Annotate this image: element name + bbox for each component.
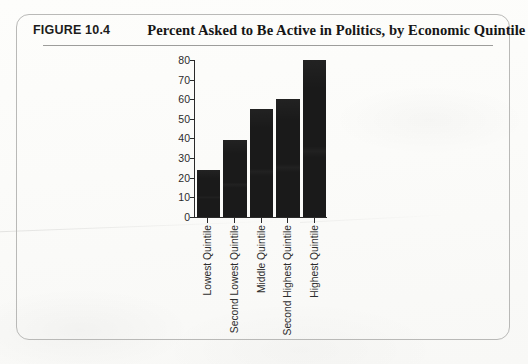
- figure-header: FIGURE 10.4 Percent Asked to Be Active i…: [16, 14, 510, 46]
- y-tick-label: 50: [178, 113, 190, 125]
- bar: [250, 109, 274, 217]
- y-tick-label: 20: [178, 172, 190, 184]
- y-tick-label: 80: [178, 54, 190, 66]
- y-tick-label: 70: [178, 74, 190, 86]
- y-tick-label: 40: [178, 132, 190, 144]
- plot-area: 01020304050607080 Lowest QuintileSecond …: [194, 60, 327, 218]
- figure-title: Percent Asked to Be Active in Politics, …: [147, 22, 525, 39]
- bar: [276, 99, 300, 217]
- figure-number-label: FIGURE 10.4: [16, 23, 110, 37]
- bar: [223, 140, 247, 216]
- x-tick-label: Second Highest Quintile: [282, 225, 293, 335]
- bar-chart: 01020304050607080 Lowest QuintileSecond …: [167, 56, 367, 336]
- y-tick-label: 30: [178, 152, 190, 164]
- header-rule: [43, 45, 493, 46]
- x-tick-label: Middle Quintile: [255, 225, 266, 293]
- x-tick-mark: [207, 218, 208, 223]
- y-tick-mark: [190, 217, 195, 218]
- x-tick-label: Lowest Quintile: [202, 225, 213, 295]
- x-tick-label: Highest Quintile: [308, 225, 319, 298]
- x-tick-mark: [261, 218, 262, 223]
- x-tick-mark: [287, 218, 288, 223]
- y-axis: [194, 60, 195, 218]
- y-tick-label: 0: [184, 211, 190, 223]
- y-tick-label: 10: [178, 191, 190, 203]
- x-tick-label: Second Lowest Quintile: [228, 225, 239, 333]
- x-tick-mark: [234, 218, 235, 223]
- bar: [303, 60, 327, 217]
- x-tick-mark: [314, 218, 315, 223]
- bar: [197, 170, 221, 217]
- y-tick-label: 60: [178, 93, 190, 105]
